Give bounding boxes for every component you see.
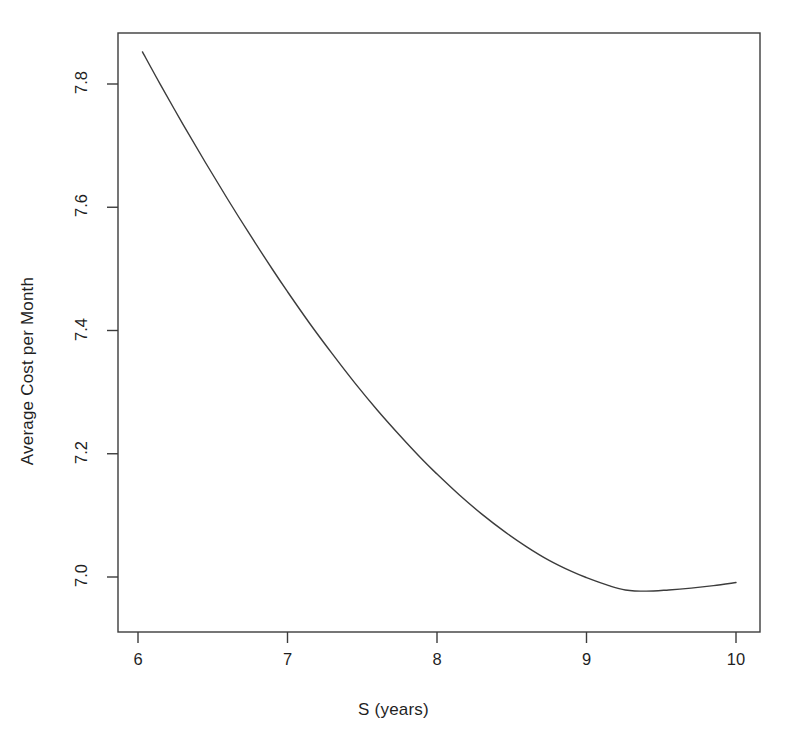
figure-container: 678910 7.07.27.47.67.8 S (years) Average…	[0, 0, 787, 741]
x-tick-label-2: 8	[417, 650, 457, 669]
y-tick-label-2: 7.4	[72, 306, 91, 352]
y-axis-title-wrapper: Average Cost per Month	[0, 0, 56, 741]
y-axis-title: Average Cost per Month	[18, 276, 38, 464]
y-tick-label-1: 7.2	[72, 429, 91, 475]
x-tick-label-4: 10	[716, 650, 756, 669]
x-axis-title: S (years)	[0, 700, 787, 720]
chart-canvas	[0, 0, 787, 741]
y-tick-label-3: 7.6	[72, 183, 91, 229]
y-tick-label-4: 7.8	[72, 60, 91, 106]
x-tick-label-3: 9	[567, 650, 607, 669]
y-tick-label-0: 7.0	[72, 553, 91, 599]
x-tick-label-0: 6	[118, 650, 158, 669]
x-tick-label-1: 7	[268, 650, 308, 669]
